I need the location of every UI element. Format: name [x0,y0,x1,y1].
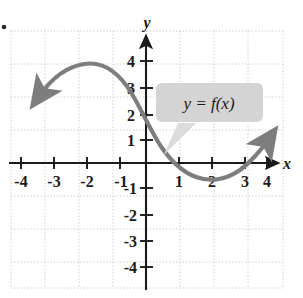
x-tick-label: -4 [14,173,27,190]
x-tick-label: 4 [263,173,271,190]
y-tick-label: 1 [127,132,135,149]
y-tick-label: -2 [124,207,137,224]
y-tick-label: 4 [127,53,135,70]
y-axis-label: y [141,14,151,32]
corner-dot-marker [2,25,7,30]
y-tick-label: -1 [124,180,137,197]
x-tick-label: 1 [175,173,183,190]
function-graph-figure: -4 -3 -2 -1 1 2 3 4 4 3 2 1 -1 -2 -3 -4 … [0,0,303,298]
function-label: y = f(x) [181,94,234,113]
x-axis-label: x [282,155,291,172]
x-tick-label: -2 [80,173,93,190]
y-tick-label: -4 [124,259,137,276]
x-tick-label: -3 [47,173,60,190]
y-tick-label: -3 [124,233,137,250]
x-tick-label: 3 [241,173,249,190]
y-tick-label: 2 [127,107,135,124]
graph-canvas: -4 -3 -2 -1 1 2 3 4 4 3 2 1 -1 -2 -3 -4 … [0,0,303,298]
